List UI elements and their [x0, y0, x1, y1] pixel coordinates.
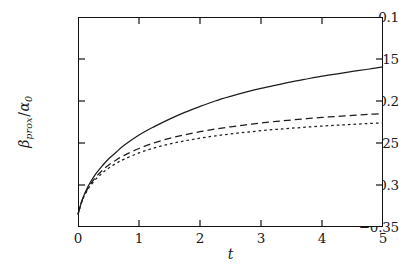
curve-solid	[78, 67, 383, 214]
curve-dashed	[78, 114, 383, 215]
y-axis-ticks	[78, 59, 383, 185]
data-curves	[78, 67, 383, 214]
plot-svg	[0, 0, 399, 274]
x-axis-label: t	[78, 246, 383, 262]
x-axis-ticks	[139, 17, 322, 227]
curve-dotted	[78, 123, 383, 215]
figure-canvas: βprox/α0 −0.1 −0.15 −0.2 −0.25 −0.3 −0.3…	[0, 0, 399, 274]
